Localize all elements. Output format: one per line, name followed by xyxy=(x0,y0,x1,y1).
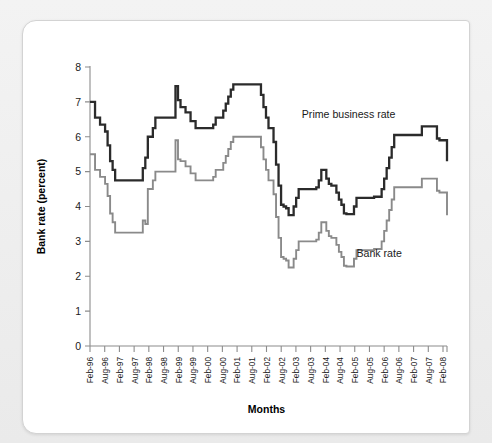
x-tick-label: Aug-03 xyxy=(306,357,316,384)
x-tick-label: Aug-01 xyxy=(247,357,257,384)
x-tick-label: Feb-07 xyxy=(409,357,419,384)
x-tick-label: Feb-01 xyxy=(232,357,242,384)
y-tick-label: 6 xyxy=(75,131,81,143)
y-tick-label: 4 xyxy=(75,200,81,212)
x-tick-label: Feb-08 xyxy=(438,357,448,384)
series-annotations: Prime business rateBank rate xyxy=(302,108,402,260)
y-tick-label: 8 xyxy=(75,61,81,73)
x-axis: Feb-96Aug-96Feb-97Aug-97Feb-98Aug-98Feb-… xyxy=(85,346,448,384)
series-label-bank-rate: Bank rate xyxy=(357,247,402,259)
x-tick-label: Aug-99 xyxy=(188,357,198,384)
x-tick-label: Feb-04 xyxy=(321,357,331,384)
y-axis-title: Bank rate (percent) xyxy=(35,159,47,255)
x-tick-label: Aug-00 xyxy=(218,357,228,384)
y-tick-label: 5 xyxy=(75,165,81,177)
series-label-prime-business-rate: Prime business rate xyxy=(302,108,396,120)
x-tick-label: Feb-97 xyxy=(115,357,125,384)
x-tick-label: Feb-99 xyxy=(174,357,184,384)
rates-line-chart: 012345678 Feb-96Aug-96Feb-97Aug-97Feb-98… xyxy=(23,21,469,433)
x-tick-label: Aug-06 xyxy=(394,357,404,384)
x-tick-label: Aug-07 xyxy=(424,357,434,384)
x-tick-label: Feb-98 xyxy=(144,357,154,384)
x-tick-label: Feb-00 xyxy=(203,357,213,384)
x-tick-label: Aug-05 xyxy=(365,357,375,384)
y-tick-label: 0 xyxy=(75,340,81,352)
y-axis: 012345678 xyxy=(75,61,90,352)
x-tick-label: Aug-02 xyxy=(277,357,287,384)
x-tick-label: Feb-03 xyxy=(291,357,301,384)
x-tick-label: Feb-05 xyxy=(350,357,360,384)
x-axis-title: Months xyxy=(248,403,285,415)
x-tick-label: Feb-96 xyxy=(85,357,95,384)
x-tick-label: Aug-97 xyxy=(130,357,140,384)
y-tick-label: 1 xyxy=(75,305,81,317)
x-tick-label: Aug-04 xyxy=(335,357,345,384)
x-tick-label: Feb-02 xyxy=(262,357,272,384)
y-tick-label: 2 xyxy=(75,270,81,282)
y-tick-label: 3 xyxy=(75,235,81,247)
chart-card: 012345678 Feb-96Aug-96Feb-97Aug-97Feb-98… xyxy=(22,20,470,434)
chart-container: 012345678 Feb-96Aug-96Feb-97Aug-97Feb-98… xyxy=(23,21,469,433)
page-background: 012345678 Feb-96Aug-96Feb-97Aug-97Feb-98… xyxy=(0,0,492,443)
y-tick-label: 7 xyxy=(75,96,81,108)
x-tick-label: Aug-96 xyxy=(100,357,110,384)
x-tick-label: Feb-06 xyxy=(380,357,390,384)
x-tick-label: Aug-98 xyxy=(159,357,169,384)
